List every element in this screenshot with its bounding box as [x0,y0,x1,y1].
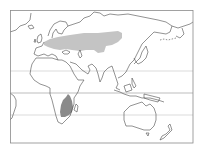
background [0,0,198,150]
range-map [0,0,198,150]
